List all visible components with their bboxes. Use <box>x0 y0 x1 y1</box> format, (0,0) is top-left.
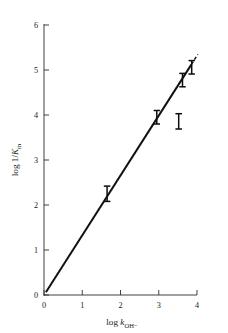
y-tick-label-0: 0 <box>34 291 38 300</box>
scatter-plot: 0 1 2 3 4 5 6 0 1 2 3 4 <box>0 0 228 333</box>
y-axis-title-prefix: log 1/ <box>10 155 20 177</box>
x-tick-label-4: 4 <box>195 301 199 310</box>
x-axis-title-prefix: log <box>106 317 120 327</box>
y-axis-ticks <box>44 25 49 295</box>
y-tick-label-4: 4 <box>34 111 38 120</box>
x-axis-title-subscript: OH− <box>124 322 138 329</box>
x-axis-ticks <box>44 290 197 295</box>
x-axis-title: log kOH− <box>106 317 138 329</box>
x-tick-label-3: 3 <box>157 301 161 310</box>
y-tick-label-1: 1 <box>34 246 38 255</box>
figure-panel: 0 1 2 3 4 5 6 0 1 2 3 4 <box>0 0 228 333</box>
x-tick-label-0: 0 <box>42 301 46 310</box>
y-tick-label-2: 2 <box>34 201 38 210</box>
y-axis-tick-labels: 0 1 2 3 4 5 6 <box>34 21 38 300</box>
y-axis-title: log 1/Km <box>10 143 22 176</box>
y-tick-label-3: 3 <box>34 156 38 165</box>
y-tick-label-5: 5 <box>34 66 38 75</box>
y-tick-label-6: 6 <box>34 21 38 30</box>
data-point-outlier <box>175 114 182 129</box>
x-axis-tick-labels: 0 1 2 3 4 <box>42 301 199 310</box>
x-tick-label-1: 1 <box>80 301 84 310</box>
regression-line <box>46 65 191 293</box>
x-tick-label-2: 2 <box>118 301 122 310</box>
y-axis-title-subscript: m <box>15 143 22 149</box>
